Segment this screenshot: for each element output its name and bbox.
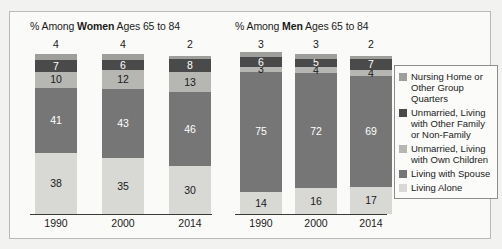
bar-stack: 167245: [295, 54, 337, 214]
legend-label: Living Alone: [411, 182, 462, 193]
bar-stack: 3543126: [102, 54, 144, 214]
bar-segment: 3: [240, 67, 282, 72]
bar-segment: [350, 56, 392, 59]
bar-segment-value: 43: [117, 118, 129, 129]
bar-segment: 13: [169, 72, 211, 93]
bar-segment: 16: [295, 188, 337, 214]
bar-segment-value: 5: [313, 58, 319, 67]
year-label-1990: 1990: [35, 217, 77, 229]
bar-women-2014: 23046138: [169, 38, 211, 214]
bar-segment-value: 38: [50, 178, 62, 189]
bar-segment-value: 7: [53, 61, 59, 72]
bar-segment: 5: [295, 59, 337, 67]
panel-women-axis: [30, 214, 212, 215]
bar-segment-value: 72: [310, 126, 322, 137]
bar-top-value: 4: [102, 38, 144, 50]
bar-segment-value: 35: [117, 181, 129, 192]
panel-men-title: % Among Men Ages 65 to 84: [235, 20, 369, 32]
bar-segment: 35: [102, 158, 144, 214]
legend-item: Living with Spouse: [399, 168, 493, 179]
bar-segment: 72: [295, 73, 337, 188]
bar-segment: [295, 54, 337, 59]
bar-top-value: 3: [295, 38, 337, 50]
legend-label: Nursing Home or Other Group Quarters: [411, 71, 493, 104]
panel-men-title-prefix: % Among: [235, 20, 282, 32]
panel-men: % Among Men Ages 65 to 84 31475363167245…: [235, 12, 385, 238]
legend-item: Unmarried, Living with Own Children: [399, 143, 493, 165]
bar-segment: 6: [102, 60, 144, 70]
bar-segment-value: 75: [255, 126, 267, 137]
panel-women-title-suffix: Ages 65 to 84: [114, 20, 180, 32]
panel-women-title-prefix: % Among: [30, 20, 77, 32]
year-label-2000: 2000: [102, 217, 144, 229]
bar-men-1990: 3147536: [240, 38, 282, 214]
bar-segment-value: 46: [184, 124, 196, 135]
bar-segment-value: 12: [117, 74, 129, 85]
chart-figure: % Among Women Ages 65 to 84 438411074354…: [0, 0, 502, 249]
bar-women-2000: 43543126: [102, 38, 144, 214]
year-label-2014: 2014: [350, 217, 392, 229]
bar-top-value: 2: [350, 38, 392, 50]
chart-frame: % Among Women Ages 65 to 84 438411074354…: [9, 11, 491, 239]
bar-segment: 43: [102, 89, 144, 158]
legend-swatch-icon: [399, 145, 407, 153]
bar-men-2000: 3167245: [295, 38, 337, 214]
bar-stack: 147536: [240, 54, 282, 214]
bar-stack: 3046138: [169, 54, 211, 214]
bar-segment: 4: [350, 70, 392, 76]
bar-segment: 10: [35, 72, 77, 88]
legend-swatch-icon: [399, 109, 407, 117]
legend-swatch-icon: [399, 170, 407, 178]
panel-women-title-emphasis: Women: [77, 20, 114, 32]
bar-segment-value: 6: [258, 58, 264, 67]
bar-segment-value: 8: [187, 60, 193, 71]
chart-legend: Nursing Home or Other Group QuartersUnma…: [394, 65, 498, 199]
bar-men-2014: 2176947: [350, 38, 392, 214]
bar-segment: 75: [240, 72, 282, 192]
bar-segment: 69: [350, 76, 392, 186]
bar-segment-value: 41: [50, 115, 62, 126]
bar-segment: 46: [169, 92, 211, 166]
bar-segment: 41: [35, 88, 77, 154]
bar-segment-value: 17: [365, 195, 377, 206]
bar-women-1990: 43841107: [35, 38, 77, 214]
bar-segment: [35, 54, 77, 60]
legend-swatch-icon: [399, 184, 407, 192]
bar-stack: 3841107: [35, 54, 77, 214]
legend-item: Nursing Home or Other Group Quarters: [399, 71, 493, 104]
panel-men-year-labels: 199020002014: [235, 217, 385, 233]
bar-segment: 14: [240, 192, 282, 214]
bar-stack: 176947: [350, 54, 392, 214]
panel-women-bars: 438411074354312623046138: [30, 38, 225, 214]
year-label-1990: 1990: [240, 217, 282, 229]
bar-segment-value: 14: [255, 198, 267, 209]
panel-women-title: % Among Women Ages 65 to 84: [30, 20, 180, 32]
bar-segment: 38: [35, 153, 77, 214]
bar-top-value: 2: [169, 38, 211, 50]
bar-segment: 12: [102, 70, 144, 89]
legend-label: Unmarried, Living with Own Children: [411, 143, 493, 165]
year-label-2014: 2014: [169, 217, 211, 229]
panel-women: % Among Women Ages 65 to 84 438411074354…: [30, 12, 225, 238]
bar-segment-value: 13: [184, 77, 196, 88]
bar-segment: [169, 56, 211, 59]
bar-segment-value: 30: [184, 185, 196, 196]
bar-segment-value: 6: [120, 61, 126, 70]
bar-segment-value: 7: [368, 59, 374, 70]
bar-segment-value: 69: [365, 126, 377, 137]
bar-segment: [240, 52, 282, 57]
bar-segment-value: 10: [50, 74, 62, 85]
bar-segment-value: 16: [310, 196, 322, 207]
bar-segment: 7: [350, 59, 392, 70]
panel-men-axis: [235, 214, 387, 215]
bar-top-value: 4: [35, 38, 77, 50]
panel-men-title-emphasis: Men: [282, 20, 303, 32]
panel-men-title-suffix: Ages 65 to 84: [303, 20, 369, 32]
legend-label: Unmarried, Living with Other Family or N…: [411, 107, 493, 140]
bar-segment: 7: [35, 60, 77, 71]
panel-men-bars: 314753631672452176947: [235, 38, 385, 214]
bar-top-value: 3: [240, 38, 282, 50]
legend-item: Living Alone: [399, 182, 493, 193]
legend-label: Living with Spouse: [411, 168, 490, 179]
legend-swatch-icon: [399, 73, 407, 81]
